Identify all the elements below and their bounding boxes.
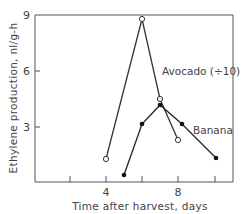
y-tick-label-3: 3: [23, 121, 30, 134]
banana-point: [214, 156, 219, 161]
y-tick-label-6: 6: [23, 65, 30, 78]
series-banana: [122, 103, 219, 178]
banana-point: [180, 122, 185, 127]
avocado-point: [157, 96, 162, 101]
avocado-point: [175, 137, 180, 142]
banana-point: [122, 173, 127, 178]
y-axis-title: Ethylene production, nl/g-h: [7, 23, 19, 174]
avocado-point: [139, 16, 144, 21]
avocado-point: [103, 156, 108, 161]
y-tick-label-9: 9: [23, 9, 30, 22]
x-axis-title: Time after harvest, days: [71, 200, 208, 212]
x-tick-label-8: 8: [175, 186, 182, 199]
banana-label: Banana: [193, 124, 233, 136]
series-avocado: [103, 16, 180, 161]
plot-frame: [35, 15, 233, 182]
x-tick-label-4: 4: [103, 186, 110, 199]
y-ticks: [35, 71, 40, 127]
banana-point: [140, 122, 145, 127]
x-ticks: [70, 176, 215, 182]
avocado-label: Avocado (÷10): [162, 65, 240, 77]
chart: 9 6 3 4 8 Time after harvest, days Ethyl…: [0, 0, 245, 214]
banana-point: [158, 103, 163, 108]
